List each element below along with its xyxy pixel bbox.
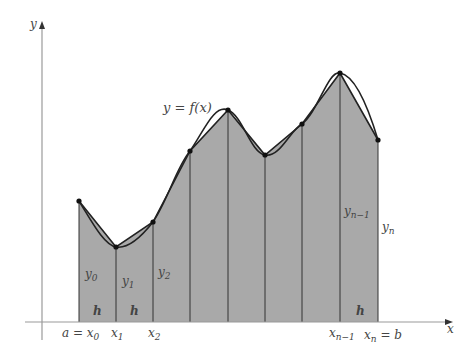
tick-label-xn-1: xn−1 (329, 326, 355, 342)
tick-label-x2: x2 (148, 326, 161, 342)
width-label-h1: h (93, 304, 102, 318)
width-label-h2: h (130, 304, 139, 318)
trapezoidal-rule-figure: y x y = f(x) y0 y1 y2 yn−1 yn h h h a = … (0, 0, 473, 350)
x-axis-label: x (447, 322, 454, 336)
width-label-h3: h (356, 304, 365, 318)
ordinate-label-yn: yn (381, 220, 395, 236)
curve-label: y = f(x) (162, 100, 212, 115)
tick-label-xn: xn = b (364, 328, 402, 344)
tick-label-x0: a = x0 (62, 326, 100, 342)
tick-label-x1: x1 (111, 326, 124, 342)
y-axis-label: y (29, 17, 37, 31)
y-axis-arrow-icon (39, 21, 45, 29)
